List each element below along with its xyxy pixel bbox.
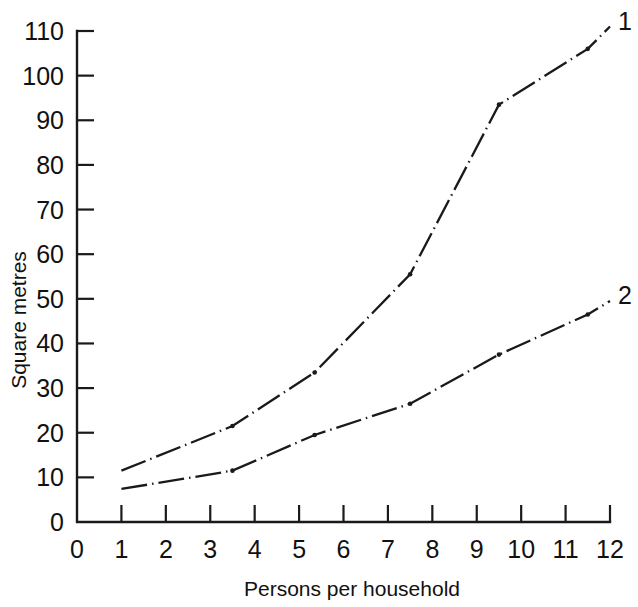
series-label-2: 2 [618, 281, 632, 309]
data-series-group [121, 27, 610, 489]
y-tick-label-0: 0 [50, 508, 64, 536]
plot-axes: 0102030405060708090100110 01234567891011… [22, 17, 624, 563]
series-2-point-1 [230, 468, 235, 473]
x-tick-label-1: 1 [114, 535, 128, 563]
y-tick-label-60: 60 [36, 240, 64, 268]
series-2-point-5 [585, 312, 590, 317]
y-axis-ticks [77, 31, 94, 477]
y-tick-label-80: 80 [36, 151, 64, 179]
y-tick-label-110: 110 [24, 17, 64, 45]
x-tick-label-8: 8 [425, 535, 439, 563]
y-tick-label-40: 40 [36, 329, 64, 357]
y-tick-label-50: 50 [36, 285, 64, 313]
x-tick-label-12: 12 [596, 535, 624, 563]
series-2-point-3 [408, 401, 413, 406]
series-1-point-1 [230, 424, 235, 429]
series-2-point-4 [497, 352, 502, 357]
line-chart-canvas: 0102030405060708090100110 01234567891011… [0, 0, 638, 607]
chart-figure: 0102030405060708090100110 01234567891011… [0, 0, 638, 607]
x-tick-label-3: 3 [203, 535, 217, 563]
series-1-point-3 [408, 272, 413, 277]
series-1-point-4 [497, 102, 502, 107]
y-tick-label-70: 70 [36, 196, 64, 224]
axis-lines [77, 31, 610, 522]
y-tick-label-90: 90 [36, 106, 64, 134]
x-tick-label-7: 7 [381, 535, 395, 563]
x-tick-label-2: 2 [159, 535, 173, 563]
x-axis-title: Persons per household [244, 577, 460, 600]
y-tick-label-20: 20 [36, 419, 64, 447]
series-1-point-2 [312, 370, 317, 375]
x-axis-tick-labels: 0123456789101112 [70, 535, 624, 563]
series-line-2 [121, 301, 610, 489]
x-tick-label-9: 9 [470, 535, 484, 563]
x-tick-label-5: 5 [292, 535, 306, 563]
x-tick-label-10: 10 [507, 535, 535, 563]
y-tick-label-10: 10 [36, 463, 64, 491]
series-line-1 [121, 27, 610, 471]
x-tick-label-6: 6 [337, 535, 351, 563]
x-tick-label-11: 11 [553, 535, 579, 563]
y-axis-title: Square metres [7, 251, 30, 389]
series-1-point-5 [585, 47, 590, 52]
series-end-labels: 12 [618, 7, 632, 310]
y-tick-label-30: 30 [36, 374, 64, 402]
y-tick-label-100: 100 [22, 62, 64, 90]
x-axis-ticks [121, 505, 610, 522]
series-label-1: 1 [618, 7, 632, 35]
series-2-point-2 [312, 433, 317, 438]
x-tick-label-0: 0 [70, 535, 84, 563]
x-tick-label-4: 4 [248, 535, 262, 563]
